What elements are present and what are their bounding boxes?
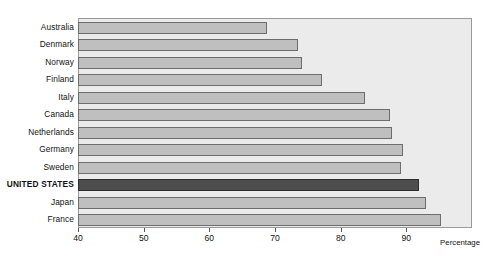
category-axis: AustraliaDenmarkNorwayFinlandItalyCanada… bbox=[0, 18, 74, 228]
bar bbox=[78, 197, 426, 209]
x-tick-label: 90 bbox=[402, 233, 412, 243]
x-tick-label: 40 bbox=[73, 233, 83, 243]
category-label: Denmark bbox=[0, 39, 74, 49]
bar bbox=[78, 92, 365, 104]
bar bbox=[78, 214, 441, 226]
bar bbox=[78, 39, 298, 51]
x-tick-mark bbox=[144, 228, 145, 232]
x-tick-mark bbox=[209, 228, 210, 232]
bar bbox=[78, 22, 267, 34]
category-label: Italy bbox=[0, 92, 74, 102]
bar bbox=[78, 144, 403, 156]
category-label: UNITED STATES bbox=[0, 179, 74, 189]
x-tick-mark bbox=[341, 228, 342, 232]
bar bbox=[78, 74, 322, 86]
bar bbox=[78, 162, 401, 174]
category-label: Australia bbox=[0, 22, 74, 32]
x-tick-label: 70 bbox=[270, 233, 280, 243]
x-tick-mark bbox=[275, 228, 276, 232]
category-label: Sweden bbox=[0, 162, 74, 172]
bars-layer bbox=[79, 19, 471, 227]
category-label: Finland bbox=[0, 74, 74, 84]
category-label: France bbox=[0, 214, 74, 224]
x-tick-label: 60 bbox=[205, 233, 215, 243]
category-label: Japan bbox=[0, 197, 74, 207]
x-tick-label: 80 bbox=[336, 233, 346, 243]
bar bbox=[78, 109, 390, 121]
x-axis-title: Percentage bbox=[440, 238, 480, 248]
bar-chart: AustraliaDenmarkNorwayFinlandItalyCanada… bbox=[0, 0, 488, 261]
plot-area bbox=[78, 18, 472, 228]
category-label: Norway bbox=[0, 57, 74, 67]
bar bbox=[78, 57, 302, 69]
x-tick-mark bbox=[78, 228, 79, 232]
x-axis: 405060708090 bbox=[78, 228, 472, 252]
category-label: Canada bbox=[0, 109, 74, 119]
bar bbox=[78, 179, 419, 191]
x-tick-mark bbox=[406, 228, 407, 232]
category-label: Netherlands bbox=[0, 127, 74, 137]
category-label: Germany bbox=[0, 144, 74, 154]
bar bbox=[78, 127, 392, 139]
x-tick-label: 50 bbox=[139, 233, 149, 243]
